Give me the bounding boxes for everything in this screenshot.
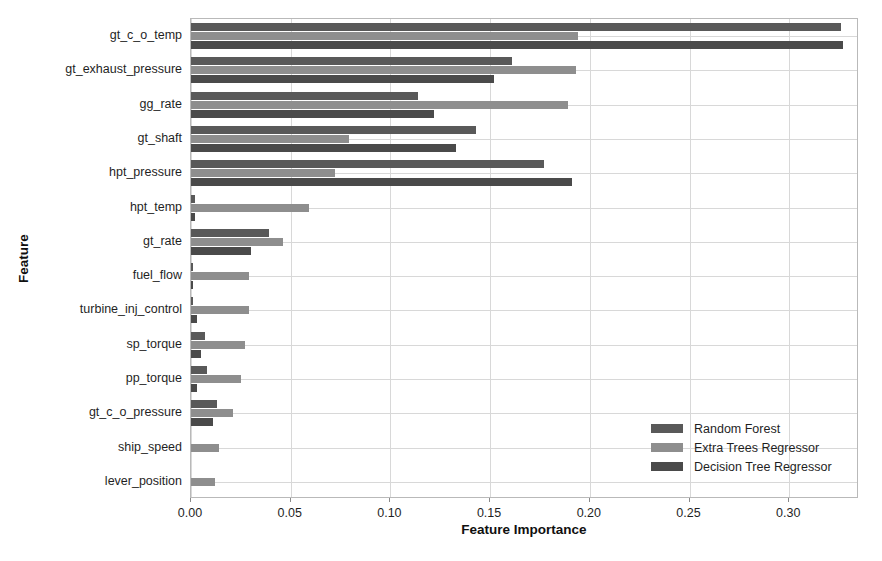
bar	[191, 57, 512, 65]
legend-item[interactable]: Extra Trees Regressor	[651, 438, 832, 457]
bar	[191, 281, 193, 289]
y-axis-tick-label: pp_torque	[10, 371, 190, 385]
x-axis-title: Feature Importance	[190, 522, 858, 537]
bar	[191, 110, 434, 118]
bar-group	[191, 160, 857, 186]
legend-swatch-icon	[651, 443, 683, 452]
bar	[191, 178, 572, 186]
bar	[191, 409, 233, 417]
y-axis-tick-label: gt_c_o_temp	[10, 28, 190, 42]
y-axis-tick-label: turbine_inj_control	[10, 302, 190, 316]
x-axis-tick-label: 0.05	[278, 506, 302, 520]
legend-item[interactable]: Random Forest	[651, 419, 832, 438]
x-axis-tick-label: 0.30	[776, 506, 800, 520]
bar-group	[191, 366, 857, 392]
x-axis-tick-label: 0.25	[676, 506, 700, 520]
bar-group	[191, 297, 857, 323]
bar	[191, 418, 213, 426]
bar	[191, 75, 494, 83]
x-axis-tick-mark	[489, 498, 490, 502]
bar	[191, 204, 309, 212]
y-axis-tick-label: gt_c_o_pressure	[10, 405, 190, 419]
x-axis-tick-label: 0.20	[577, 506, 601, 520]
x-axis-tick-label: 0.10	[377, 506, 401, 520]
bar	[191, 229, 269, 237]
x-axis-tick-mark	[788, 498, 789, 502]
y-axis-tick-label: gg_rate	[10, 97, 190, 111]
x-axis-tick-label: 0.00	[178, 506, 202, 520]
x-axis-tick-mark	[290, 498, 291, 502]
bar	[191, 263, 193, 271]
bar	[191, 350, 201, 358]
bar	[191, 92, 418, 100]
bar	[191, 135, 349, 143]
y-axis-tick-label: gt_rate	[10, 234, 190, 248]
bar	[191, 341, 245, 349]
bar	[191, 272, 249, 280]
bar	[191, 101, 568, 109]
y-axis-tick-label: lever_position	[10, 474, 190, 488]
legend-item[interactable]: Decision Tree Regressor	[651, 457, 832, 476]
bar	[191, 315, 197, 323]
bar	[191, 238, 283, 246]
bar	[191, 41, 843, 49]
x-axis-tick-mark	[389, 498, 390, 502]
bar	[191, 332, 205, 340]
legend-item-label: Decision Tree Regressor	[694, 460, 832, 474]
bar	[191, 366, 207, 374]
bar-group	[191, 126, 857, 152]
bar-group	[191, 263, 857, 289]
x-axis-tick-mark	[689, 498, 690, 502]
y-axis-tick-label: hpt_pressure	[10, 165, 190, 179]
x-axis-tick-mark	[589, 498, 590, 502]
bar-group	[191, 332, 857, 358]
bar	[191, 32, 578, 40]
x-axis-tick-mark	[190, 498, 191, 502]
bar	[191, 306, 249, 314]
x-axis-tick-label: 0.15	[477, 506, 501, 520]
y-axis-tick-label: fuel_flow	[10, 268, 190, 282]
legend-item-label: Extra Trees Regressor	[694, 441, 819, 455]
bar	[191, 478, 215, 486]
bar	[191, 66, 576, 74]
y-axis-tick-label: ship_speed	[10, 440, 190, 454]
bar	[191, 160, 544, 168]
y-axis-tick-label: gt_shaft	[10, 131, 190, 145]
bar-group	[191, 92, 857, 118]
legend-swatch-icon	[651, 424, 683, 433]
bar-group	[191, 57, 857, 83]
bar	[191, 444, 219, 452]
bar	[191, 400, 217, 408]
bar	[191, 384, 197, 392]
bar	[191, 195, 195, 203]
bar	[191, 297, 193, 305]
legend-swatch-icon	[651, 462, 683, 471]
bar-group	[191, 229, 857, 255]
y-axis-tick-label: hpt_temp	[10, 200, 190, 214]
bar	[191, 126, 476, 134]
bar	[191, 23, 841, 31]
legend: Random Forest Extra Trees Regressor Deci…	[645, 413, 840, 482]
bar	[191, 169, 335, 177]
bar	[191, 144, 456, 152]
bar	[191, 213, 195, 221]
bar	[191, 247, 251, 255]
y-axis-tick-labels: gt_c_o_tempgt_exhaust_pressuregg_rategt_…	[0, 18, 190, 498]
y-axis-tick-label: gt_exhaust_pressure	[10, 62, 190, 76]
y-axis-tick-label: sp_torque	[10, 337, 190, 351]
bar-group	[191, 195, 857, 221]
bar-group	[191, 23, 857, 49]
bar	[191, 375, 241, 383]
legend-item-label: Random Forest	[694, 422, 780, 436]
feature-importance-figure: Feature gt_c_o_tempgt_exhaust_pressuregg…	[0, 0, 882, 561]
